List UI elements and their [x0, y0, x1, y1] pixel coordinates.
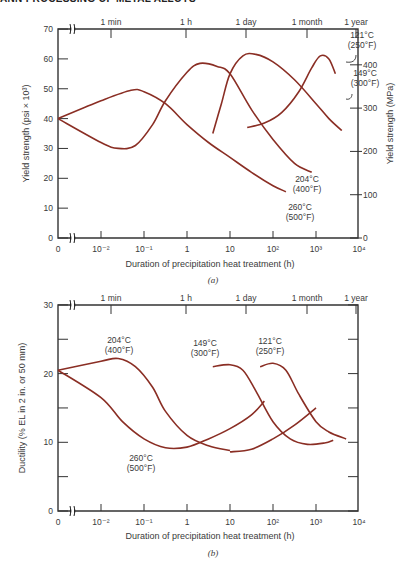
- y-right-tick-label: 100: [363, 190, 377, 200]
- y-tick-label: 20: [44, 369, 54, 379]
- y-right-axis-label: Yield strength (MPa): [385, 83, 395, 165]
- curve-label-fahrenheit: (500°F): [127, 463, 156, 473]
- y-right-tick-label: 0: [363, 233, 368, 243]
- x-tick-label: 10⁻²: [92, 517, 109, 527]
- top-time-tick-label: 1 month: [292, 17, 323, 27]
- x-tick-label: 10: [225, 244, 235, 254]
- data-curve: [213, 54, 342, 134]
- chart-a-yield-strength: 010⁻²10⁻¹11010²10³10⁴1 min1 h1 day1 mont…: [21, 17, 395, 285]
- x-tick-label: 10³: [310, 517, 322, 527]
- data-curve: [247, 55, 335, 127]
- curve-label-fahrenheit: (300°F): [351, 78, 380, 88]
- plot-frame: [58, 305, 358, 511]
- y-tick-label: 20: [44, 173, 54, 183]
- curve-label-celsius: 204°C: [107, 335, 131, 345]
- curve-label-celsius: 260°C: [288, 202, 312, 212]
- curve-label-fahrenheit: (400°F): [105, 345, 134, 355]
- data-curve: [260, 363, 346, 439]
- top-time-tick-label: 1 day: [236, 293, 258, 303]
- y-axis-label: Yield strength (psi × 10³): [21, 85, 31, 183]
- data-curve: [58, 358, 230, 450]
- data-curve: [213, 365, 333, 445]
- y-tick-label: 10: [44, 203, 54, 213]
- y-axis-label: Ductility (% EL in 2 in. or 50 mm): [17, 343, 27, 474]
- curve-label-celsius: 204°C: [295, 174, 319, 184]
- y-tick-label: 40: [44, 114, 54, 124]
- x-tick-label: 10⁻¹: [135, 517, 152, 527]
- top-time-tick-label: 1 min: [101, 17, 122, 27]
- curve-label-fahrenheit: (500°F): [286, 212, 315, 222]
- curve-label-fahrenheit: (300°F): [191, 348, 220, 358]
- y-tick-label: 30: [44, 300, 54, 310]
- y-tick-label: 0: [48, 506, 53, 516]
- top-time-tick-label: 1 h: [180, 17, 192, 27]
- x-tick-label: 1: [185, 517, 190, 527]
- curve-label-celsius: 121°C: [350, 30, 374, 40]
- chart-b-ductility: 010⁻²10⁻¹11010²10³10⁴1 min1 h1 day1 mont…: [17, 293, 368, 558]
- panel-caption: (a): [208, 275, 219, 285]
- y-tick-label: 0: [48, 233, 53, 243]
- data-curve: [58, 89, 286, 191]
- data-curve: [230, 408, 316, 452]
- pointer-arrow-icon: [346, 94, 352, 99]
- plot-frame: [58, 29, 358, 238]
- x-tick-label: 10⁴: [352, 244, 365, 254]
- top-time-tick-label: 1 min: [101, 293, 122, 303]
- x-tick-label: 0: [56, 517, 61, 527]
- x-tick-label: 1: [185, 244, 190, 254]
- y-tick-label: 30: [44, 143, 54, 153]
- y-right-tick-label: 300: [363, 103, 377, 113]
- curve-label-celsius: 149°C: [193, 338, 217, 348]
- curve-label-fahrenheit: (250°F): [256, 346, 285, 356]
- top-time-tick-label: 1 year: [344, 17, 368, 27]
- x-tick-label: 10²: [267, 244, 279, 254]
- x-axis-label: Duration of precipitation heat treatment…: [125, 531, 294, 541]
- top-time-tick-label: 1 month: [292, 293, 323, 303]
- x-axis-label: Duration of precipitation heat treatment…: [125, 259, 294, 269]
- curve-label-celsius: 260°C: [129, 453, 153, 463]
- x-tick-label: 10⁻²: [92, 244, 109, 254]
- x-tick-label: 10: [225, 517, 235, 527]
- x-tick-label: 10²: [267, 517, 279, 527]
- figure-charts: 010⁻²10⁻¹11010²10³10⁴1 min1 h1 day1 mont…: [0, 0, 413, 575]
- x-tick-label: 10⁴: [352, 517, 365, 527]
- y-tick-label: 60: [44, 54, 54, 64]
- curve-label-fahrenheit: (400°F): [293, 184, 322, 194]
- x-tick-label: 0: [56, 244, 61, 254]
- curve-label-celsius: 149°C: [353, 68, 377, 78]
- y-tick-label: 70: [44, 24, 54, 34]
- pointer-arrow-icon: [346, 55, 356, 62]
- top-time-tick-label: 1 year: [344, 293, 368, 303]
- data-curve: [58, 370, 264, 448]
- y-right-tick-label: 200: [363, 146, 377, 156]
- y-tick-label: 50: [44, 84, 54, 94]
- panel-caption: (b): [208, 548, 219, 558]
- x-tick-label: 10³: [310, 244, 322, 254]
- top-time-tick-label: 1 day: [236, 17, 258, 27]
- top-time-tick-label: 1 h: [180, 293, 192, 303]
- curve-label-celsius: 121°C: [258, 336, 282, 346]
- y-tick-label: 10: [44, 437, 54, 447]
- curve-label-fahrenheit: (250°F): [348, 40, 377, 50]
- x-tick-label: 10⁻¹: [135, 244, 152, 254]
